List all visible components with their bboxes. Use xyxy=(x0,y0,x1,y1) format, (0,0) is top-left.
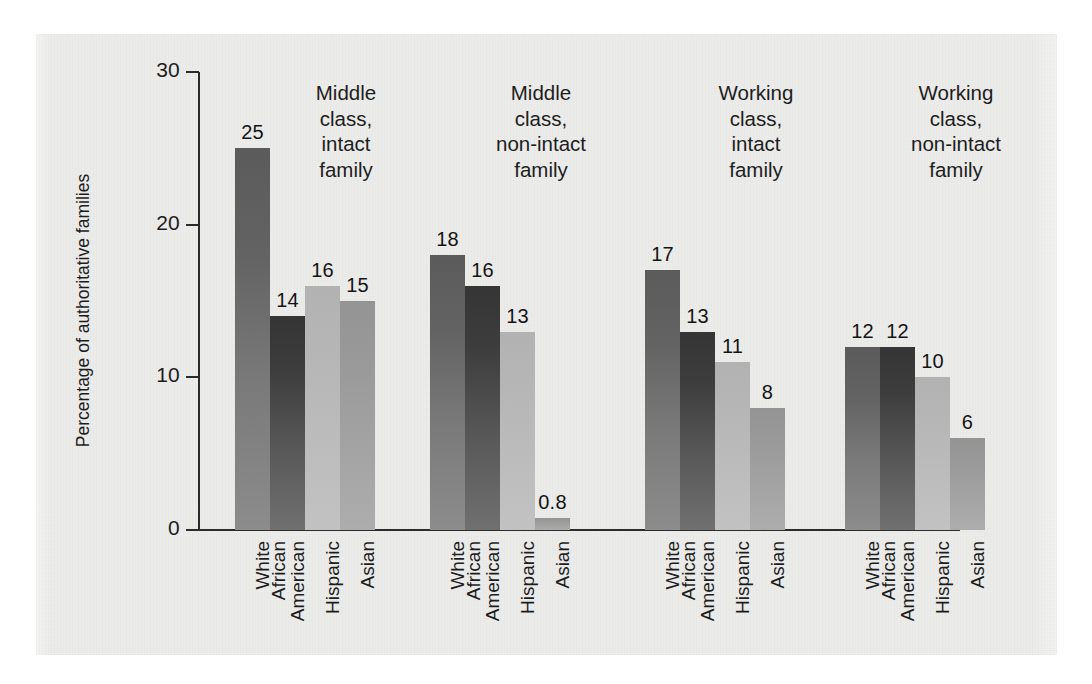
category-label: Hispanic xyxy=(500,541,535,557)
category-label: Asian xyxy=(950,541,985,557)
bar-fill xyxy=(430,255,465,530)
category-label-text: Asian xyxy=(358,541,377,589)
category-label: Hispanic xyxy=(915,541,950,557)
category-label: White xyxy=(845,541,880,557)
bar-value-label: 17 xyxy=(651,243,674,266)
bar-value-label: 12 xyxy=(851,320,874,343)
bar[interactable] xyxy=(880,347,915,530)
bar-fill xyxy=(915,377,950,530)
bar-value-label: 8 xyxy=(762,381,773,404)
category-label-text: Asian xyxy=(553,541,572,589)
bar-value-label: 13 xyxy=(506,305,529,328)
bar-value-label: 12 xyxy=(886,320,909,343)
bar[interactable] xyxy=(535,518,570,530)
bar[interactable] xyxy=(845,347,880,530)
bar[interactable] xyxy=(500,332,535,530)
category-label-text: AfricanAmerican xyxy=(269,541,307,621)
category-label-text: AfricanAmerican xyxy=(879,541,917,621)
category-label: Hispanic xyxy=(715,541,750,557)
bar-fill xyxy=(500,332,535,530)
category-label-line: African xyxy=(268,541,289,600)
bar[interactable] xyxy=(305,286,340,530)
bar[interactable] xyxy=(715,362,750,530)
category-label-line: American xyxy=(288,541,307,621)
category-label: AfricanAmerican xyxy=(270,541,305,557)
category-label: White xyxy=(430,541,465,557)
bar-fill xyxy=(950,438,985,530)
bar-fill xyxy=(680,332,715,530)
bar-value-label: 10 xyxy=(921,350,944,373)
bar[interactable] xyxy=(270,316,305,530)
category-label-line: American xyxy=(698,541,717,621)
category-label-text: Asian xyxy=(768,541,787,589)
bar-value-label: 0.8 xyxy=(538,491,566,514)
category-label-line: African xyxy=(463,541,484,600)
bar-value-label: 6 xyxy=(962,411,973,434)
bar-fill xyxy=(880,347,915,530)
category-label: AfricanAmerican xyxy=(880,541,915,557)
bar[interactable] xyxy=(950,438,985,530)
category-label: Hispanic xyxy=(305,541,340,557)
category-label: Asian xyxy=(750,541,785,557)
category-label: AfricanAmerican xyxy=(465,541,500,557)
bar-value-label: 15 xyxy=(346,274,369,297)
bar-value-label: 14 xyxy=(276,289,299,312)
category-label-line: African xyxy=(878,541,899,600)
category-label: AfricanAmerican xyxy=(680,541,715,557)
bar-fill xyxy=(270,316,305,530)
bar[interactable] xyxy=(750,408,785,530)
bar-value-label: 18 xyxy=(436,228,459,251)
bar-value-label: 16 xyxy=(311,259,334,282)
bar[interactable] xyxy=(680,332,715,530)
category-label-line: American xyxy=(483,541,502,621)
bar[interactable] xyxy=(340,301,375,530)
bar-chart: Percentage of authoritative families 010… xyxy=(0,0,1092,684)
bars-layer xyxy=(0,0,1092,531)
bar-fill xyxy=(465,286,500,530)
bar-value-label: 13 xyxy=(686,305,709,328)
category-label-text: Hispanic xyxy=(518,541,537,614)
category-label: White xyxy=(235,541,270,557)
bar-fill xyxy=(715,362,750,530)
bar[interactable] xyxy=(235,148,270,530)
bar-value-label: 16 xyxy=(471,259,494,282)
bar-value-label: 11 xyxy=(722,335,743,358)
category-label-line: American xyxy=(898,541,917,621)
bar-fill xyxy=(305,286,340,530)
category-label: Asian xyxy=(535,541,570,557)
bar[interactable] xyxy=(465,286,500,530)
category-label: White xyxy=(645,541,680,557)
category-label-text: Asian xyxy=(968,541,987,589)
category-label-text: Hispanic xyxy=(733,541,752,614)
bar[interactable] xyxy=(915,377,950,530)
bar-value-label: 25 xyxy=(241,121,264,144)
bar[interactable] xyxy=(430,255,465,530)
category-label-text: AfricanAmerican xyxy=(464,541,502,621)
category-label-text: Hispanic xyxy=(933,541,952,614)
bar-fill xyxy=(535,518,570,530)
category-label-text: Hispanic xyxy=(323,541,342,614)
bar-fill xyxy=(845,347,880,530)
bar-fill xyxy=(235,148,270,530)
category-label-line: African xyxy=(678,541,699,600)
bar[interactable] xyxy=(645,270,680,530)
category-label: Asian xyxy=(340,541,375,557)
bar-fill xyxy=(645,270,680,530)
bar-fill xyxy=(750,408,785,530)
category-label-text: AfricanAmerican xyxy=(679,541,717,621)
bar-fill xyxy=(340,301,375,530)
